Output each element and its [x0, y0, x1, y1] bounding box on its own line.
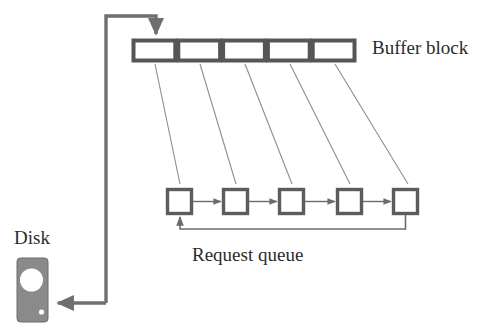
request-queue-node-2: [224, 190, 248, 214]
connector-line-1: [155, 64, 180, 184]
diagram-canvas: Buffer block Request queue Disk: [0, 0, 502, 336]
disk-label: Disk: [14, 228, 50, 247]
disk-drive-icon: [17, 258, 48, 322]
buffer-block-cell-1: [134, 41, 176, 61]
buffer-block-cell-4: [268, 41, 310, 61]
request-queue-node-1: [168, 190, 192, 214]
request-queue-node-5: [394, 190, 418, 214]
buffer-block-cell-3: [223, 41, 265, 61]
request-queue-feedback-arrow: [180, 215, 406, 229]
request-queue-node-3: [280, 190, 304, 214]
request-queue-label: Request queue: [192, 245, 303, 264]
request-queue-node-4: [338, 190, 362, 214]
connector-line-4: [290, 64, 350, 184]
connector-line-5: [335, 64, 408, 184]
connector-line-3: [245, 64, 292, 184]
disk-platter: [20, 269, 43, 292]
buffer-block-label: Buffer block: [372, 38, 468, 57]
buffer-to-queue-connectors: [155, 64, 408, 184]
buffer-block: [134, 41, 355, 61]
connector-line-2: [200, 64, 236, 184]
buffer-block-cell-5: [313, 41, 355, 61]
disk-indicator-light: [39, 309, 44, 314]
buffer-block-cell-2: [178, 41, 220, 61]
